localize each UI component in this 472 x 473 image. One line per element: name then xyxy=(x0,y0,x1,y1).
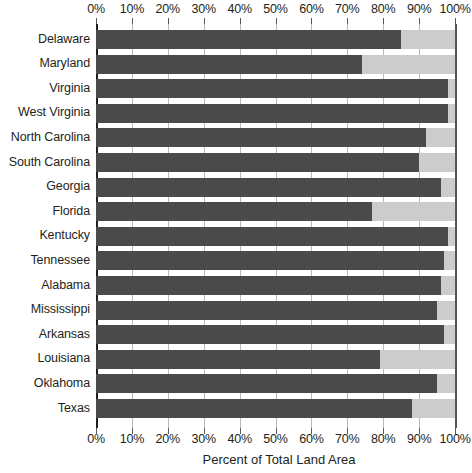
bar-row xyxy=(96,153,455,172)
x-axis-tick-mark xyxy=(132,18,133,24)
bar-value-segment xyxy=(96,251,444,270)
bar-value-segment xyxy=(96,30,401,49)
bar-value-segment xyxy=(96,399,412,418)
x-axis-tick-mark xyxy=(311,18,312,24)
bar-value-segment xyxy=(96,301,437,320)
category-label: Maryland xyxy=(39,56,90,70)
bar-row xyxy=(96,55,455,74)
category-label: Delaware xyxy=(38,32,90,46)
bar-row xyxy=(96,276,455,295)
x-axis-title: Percent of Total Land Area xyxy=(0,452,472,467)
x-axis-tick-label: 10% xyxy=(120,2,144,16)
category-label: Alabama xyxy=(41,278,90,292)
x-axis-tick-label: 20% xyxy=(156,2,180,16)
x-axis-tick-label: 80% xyxy=(371,432,395,446)
x-axis-tick-label: 50% xyxy=(263,432,287,446)
x-axis-tick-label: 60% xyxy=(299,2,323,16)
category-label: Louisiana xyxy=(37,351,90,365)
x-axis-tick-labels-bottom: 0%10%20%30%40%50%60%70%80%90%100% xyxy=(0,432,472,450)
bar-row xyxy=(96,374,455,393)
x-axis-tick-label: 100% xyxy=(439,432,470,446)
bar-value-segment xyxy=(96,178,441,197)
x-axis-tick-label: 0% xyxy=(87,2,105,16)
category-label: Florida xyxy=(52,204,90,218)
bar-row xyxy=(96,350,455,369)
category-label: South Carolina xyxy=(9,155,90,169)
bar-row xyxy=(96,227,455,246)
x-axis-tick-label: 60% xyxy=(299,432,323,446)
x-axis-tick-label: 40% xyxy=(227,2,251,16)
bar-value-segment xyxy=(96,128,426,147)
category-label: Tennessee xyxy=(30,253,90,267)
bar-row xyxy=(96,251,455,270)
x-axis-tick-mark xyxy=(455,18,456,24)
bar-row xyxy=(96,30,455,49)
bar-row xyxy=(96,128,455,147)
category-label: Virginia xyxy=(49,81,90,95)
bar-value-segment xyxy=(96,55,362,74)
x-axis-title-text: Percent of Total Land Area xyxy=(117,452,356,467)
category-label: Arkansas xyxy=(39,327,90,341)
category-label: Mississippi xyxy=(31,302,90,316)
x-axis-tick-label: 100% xyxy=(439,2,470,16)
bar-row xyxy=(96,301,455,320)
x-axis-tick-label: 50% xyxy=(263,2,287,16)
x-axis-tick-mark xyxy=(276,18,277,24)
x-axis-tick-label: 30% xyxy=(191,432,215,446)
x-axis-tick-mark xyxy=(168,18,169,24)
bar-row xyxy=(96,202,455,221)
plot-area xyxy=(96,24,455,428)
horizontal-bar-chart: 0%10%20%30%40%50%60%70%80%90%100% 0%10%2… xyxy=(0,0,472,473)
x-axis-tick-mark xyxy=(347,18,348,24)
bar-value-segment xyxy=(96,202,372,221)
bar-value-segment xyxy=(96,227,448,246)
bar-row xyxy=(96,178,455,197)
bar-value-segment xyxy=(96,79,448,98)
x-axis-tick-label: 20% xyxy=(156,432,180,446)
bar-value-segment xyxy=(96,276,441,295)
x-axis-tick-mark xyxy=(240,18,241,24)
bar-row xyxy=(96,325,455,344)
bar-value-segment xyxy=(96,153,419,172)
category-label: Oklahoma xyxy=(34,376,90,390)
x-axis-tick-label: 70% xyxy=(335,2,359,16)
x-axis-tick-mark xyxy=(204,18,205,24)
x-axis-tick-label: 90% xyxy=(407,432,431,446)
bar-value-segment xyxy=(96,350,380,369)
x-axis-tick-label: 40% xyxy=(227,432,251,446)
gridline xyxy=(455,24,457,428)
x-axis-tick-mark xyxy=(419,18,420,24)
category-label: Texas xyxy=(58,401,90,415)
x-axis-tick-labels-top: 0%10%20%30%40%50%60%70%80%90%100% xyxy=(0,2,472,20)
x-axis-tick-label: 90% xyxy=(407,2,431,16)
bar-value-segment xyxy=(96,104,448,123)
bar-value-segment xyxy=(96,325,444,344)
category-label: North Carolina xyxy=(11,130,90,144)
bar-row xyxy=(96,79,455,98)
x-axis-tick-label: 0% xyxy=(87,432,105,446)
x-axis-tick-label: 30% xyxy=(191,2,215,16)
category-label: Kentucky xyxy=(39,228,90,242)
category-label: Georgia xyxy=(46,179,90,193)
x-axis-tick-label: 70% xyxy=(335,432,359,446)
bar-value-segment xyxy=(96,374,437,393)
x-axis-tick-label: 80% xyxy=(371,2,395,16)
x-axis-tick-mark xyxy=(96,18,97,24)
category-label: West Virginia xyxy=(18,105,90,119)
x-axis-tick-label: 10% xyxy=(120,432,144,446)
x-axis-tick-mark xyxy=(383,18,384,24)
bar-row xyxy=(96,399,455,418)
bar-row xyxy=(96,104,455,123)
